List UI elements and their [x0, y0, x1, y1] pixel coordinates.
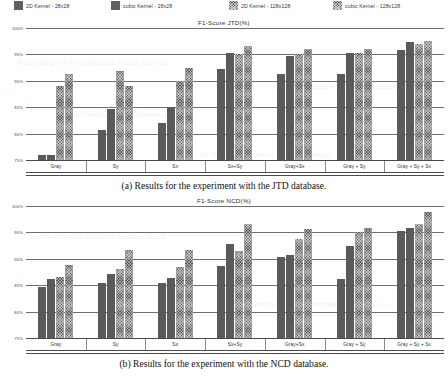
bar	[295, 239, 303, 338]
bar-group	[26, 28, 86, 160]
bar	[185, 250, 193, 338]
legend-item-1: cubic Kernel - 28x28	[111, 1, 172, 10]
x-axis-categories: GraySySxSx+SyGray+SxGray + SyGray + Sy +…	[26, 160, 444, 173]
x-axis-category-label: Sy	[86, 339, 147, 350]
bar	[244, 46, 252, 160]
y-axis-tick-label: 75%	[14, 158, 23, 163]
bar	[125, 250, 133, 338]
bar	[98, 130, 106, 160]
bar	[364, 49, 372, 160]
bar-group	[384, 206, 444, 338]
bar-groups	[26, 206, 444, 338]
x-axis-category-label: Sx	[145, 161, 206, 172]
x-axis-category-label: Gray	[26, 161, 87, 172]
y-axis-tick-label: 95%	[14, 230, 23, 235]
bar-group	[86, 28, 146, 160]
y-axis-tick-label: 90%	[14, 256, 23, 261]
axis-underline	[26, 175, 444, 176]
bar	[56, 86, 64, 160]
bar	[346, 53, 354, 160]
bar	[176, 267, 184, 338]
bar-group	[384, 28, 444, 160]
bar	[244, 224, 252, 338]
bar	[424, 41, 432, 160]
bar	[116, 71, 124, 160]
bar	[38, 287, 46, 338]
x-axis-category-label: Gray + Sy	[325, 161, 386, 172]
bar	[226, 53, 234, 160]
plot-area-ncd: 75%80%85%90%95%100%	[26, 206, 444, 338]
bar	[158, 283, 166, 338]
figure-caption-a: (a) Results for the experiment with the …	[0, 176, 448, 193]
bar	[304, 229, 312, 338]
legend-item-label: 2D Kernel - 128x128	[241, 3, 290, 9]
bar	[47, 279, 55, 338]
y-axis-labels: 75%80%85%90%95%100%	[2, 28, 24, 160]
y-axis-tick-label: 100%	[12, 26, 23, 31]
bar-group	[325, 28, 385, 160]
bar	[397, 50, 405, 160]
y-axis-tick-label: 80%	[14, 309, 23, 314]
y-axis-tick-label: 85%	[14, 283, 23, 288]
legend-item-label: 2D Kernel - 28x28	[26, 3, 70, 9]
bar-group	[265, 206, 325, 338]
bar-group	[145, 206, 205, 338]
bar	[304, 49, 312, 160]
bar	[158, 123, 166, 160]
legend-item-0: 2D Kernel - 28x28	[14, 1, 70, 10]
bar	[406, 228, 414, 338]
bar-group	[205, 28, 265, 160]
bar	[286, 255, 294, 338]
x-axis-category-label: Sx+Sy	[205, 161, 266, 172]
x-axis-categories: GraySySxSx+SyGray+SxGray + SyGray + Sy +…	[26, 338, 444, 351]
x-axis-category-label: Gray + Sy + Sx	[384, 339, 444, 350]
chart-title: F1-Score NCD(%)	[0, 196, 448, 206]
bar	[176, 81, 184, 160]
bar	[295, 54, 303, 160]
bar	[424, 212, 432, 338]
x-axis-category-label: Gray + Sy	[325, 339, 386, 350]
figure-a: 2D Kernel - 28x28 cubic Kernel - 28x28 2…	[0, 0, 448, 193]
y-axis-tick-label: 80%	[14, 131, 23, 136]
axis-underline	[26, 353, 444, 354]
bar-group	[145, 28, 205, 160]
chart-legend: 2D Kernel - 28x28 cubic Kernel - 28x28 2…	[0, 0, 448, 18]
figure-caption-b: (b) Results for the experiment with the …	[0, 354, 448, 371]
x-axis-category-label: Sx+Sy	[205, 339, 266, 350]
bar-group	[265, 28, 325, 160]
legend-swatch-icon	[229, 1, 238, 10]
bar	[337, 74, 345, 160]
x-axis-category-label: Gray+Sx	[265, 161, 326, 172]
bar	[125, 86, 133, 160]
bar	[415, 44, 423, 160]
bar	[65, 74, 73, 160]
legend-item-label: cubic Kernel - 128x128	[345, 3, 400, 9]
bar	[286, 56, 294, 160]
y-axis-labels: 75%80%85%90%95%100%	[2, 206, 24, 338]
bar	[56, 277, 64, 338]
y-axis-tick-label: 85%	[14, 105, 23, 110]
legend-item-2: 2D Kernel - 128x128	[229, 1, 290, 10]
bar	[226, 244, 234, 338]
bar-group	[26, 206, 86, 338]
x-axis-category-label: Gray+Sx	[265, 339, 326, 350]
bar	[167, 278, 175, 338]
legend-item-label: cubic Kernel - 28x28	[123, 3, 172, 9]
bar	[277, 257, 285, 338]
bar	[346, 246, 354, 338]
bar	[337, 279, 345, 338]
chart-title: F1-Score JTD(%)	[0, 18, 448, 28]
chart-ncd: F1-Score NCD(%) 75%80%85%90%95%100% Gray…	[0, 193, 448, 354]
x-axis-category-label: Gray + Sy + Sx	[384, 161, 444, 172]
y-axis-tick-label: 90%	[14, 78, 23, 83]
legend-swatch-icon	[111, 1, 120, 10]
bar	[277, 74, 285, 160]
bar-group	[325, 206, 385, 338]
bar	[217, 266, 225, 338]
bar	[406, 42, 414, 160]
y-axis-tick-label: 95%	[14, 52, 23, 57]
bar	[235, 54, 243, 160]
bar	[107, 274, 115, 338]
legend-swatch-icon	[333, 1, 342, 10]
y-axis-tick-label: 100%	[12, 204, 23, 209]
